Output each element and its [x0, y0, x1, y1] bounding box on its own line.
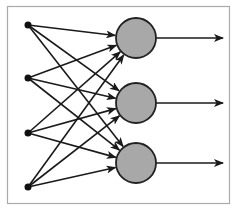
neuron-n1 [116, 18, 156, 58]
neural-network-diagram [0, 0, 235, 209]
input-node-x3 [25, 130, 32, 137]
input-node-x1 [25, 22, 32, 29]
neuron-layer [116, 18, 156, 183]
neuron-n2 [116, 83, 156, 123]
neuron-n3 [116, 143, 156, 183]
input-node-x2 [25, 75, 32, 82]
input-node-x4 [25, 184, 32, 191]
